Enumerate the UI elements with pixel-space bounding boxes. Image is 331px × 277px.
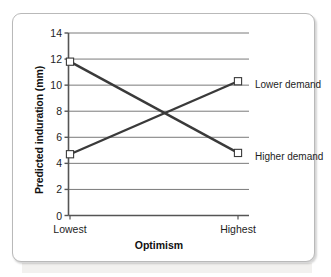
data-point-marker <box>234 78 241 85</box>
x-tick-label: Highest <box>220 224 256 235</box>
y-tick-label: 14 <box>38 28 62 39</box>
x-axis-title: Optimism <box>68 239 250 251</box>
x-tick-label: Lowest <box>53 224 86 235</box>
y-tick-label: 0 <box>38 210 62 221</box>
series-line <box>70 62 238 153</box>
series-label-lower-demand: Lower demand <box>255 80 321 90</box>
series-line <box>70 81 238 154</box>
chart-plot-area: 02468101214 LowestHighest Predicted indu… <box>0 0 331 277</box>
y-axis-title: Predicted induration (mm) <box>33 55 45 205</box>
data-point-marker <box>66 151 73 158</box>
series-label-higher-demand: Higher demand <box>255 152 323 162</box>
data-point-marker <box>66 58 73 65</box>
series-lines <box>70 62 238 155</box>
data-point-marker <box>234 149 241 156</box>
